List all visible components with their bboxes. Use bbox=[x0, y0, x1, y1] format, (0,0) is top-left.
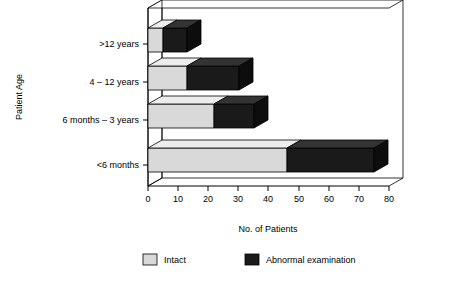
x-tick-label: 0 bbox=[145, 194, 150, 204]
bar-segment-intact bbox=[148, 66, 187, 90]
x-axis-ticks bbox=[148, 186, 389, 191]
x-tick-label: 50 bbox=[294, 194, 304, 204]
bar-group-under-6-months bbox=[148, 140, 388, 172]
legend-swatch-abnormal-examination bbox=[245, 254, 259, 265]
bar-segment-abnormal bbox=[214, 104, 254, 128]
bar-segment-intact-top bbox=[148, 140, 301, 148]
x-tick-label: 40 bbox=[263, 194, 273, 204]
bar-segment-abnormal bbox=[287, 148, 374, 172]
x-tick-labels: 0 10 20 30 40 50 60 70 80 bbox=[145, 194, 394, 204]
bar-segment-abnormal bbox=[163, 28, 187, 52]
legend-swatch-intact bbox=[143, 254, 157, 265]
bar-chart-svg: 0 10 20 30 40 50 60 70 80 >12 years 4 – … bbox=[0, 0, 468, 297]
x-tick-label: 60 bbox=[324, 194, 334, 204]
y-tick-label: <6 months bbox=[97, 160, 140, 170]
legend-label-abnormal-examination: Abnormal examination bbox=[266, 255, 356, 265]
x-tick-label: 20 bbox=[203, 194, 213, 204]
x-tick-label: 70 bbox=[354, 194, 364, 204]
bar-segment-abnormal-top bbox=[287, 140, 388, 148]
y-axis-ticks bbox=[143, 44, 148, 165]
bar-segment-intact bbox=[148, 104, 214, 128]
bar-group-4-12-years bbox=[148, 58, 253, 90]
bar-group-over-12-years bbox=[148, 20, 201, 52]
legend: Intact Abnormal examination bbox=[143, 254, 356, 265]
chart-container: 0 10 20 30 40 50 60 70 80 >12 years 4 – … bbox=[0, 0, 468, 297]
x-axis-title: No. of Patients bbox=[238, 224, 298, 234]
plot-top-edge bbox=[148, 0, 403, 8]
x-tick-label: 30 bbox=[233, 194, 243, 204]
y-tick-label: 4 – 12 years bbox=[89, 77, 139, 87]
x-tick-label: 10 bbox=[173, 194, 183, 204]
legend-label-intact: Intact bbox=[164, 255, 187, 265]
bar-segment-intact bbox=[148, 28, 163, 52]
bar-segment-abnormal bbox=[187, 66, 239, 90]
bar-segment-intact bbox=[148, 148, 287, 172]
y-tick-labels: >12 years 4 – 12 years 6 months – 3 year… bbox=[62, 39, 139, 170]
y-tick-label: >12 years bbox=[99, 39, 139, 49]
x-tick-label: 80 bbox=[384, 194, 394, 204]
y-axis-title: Patient Age bbox=[14, 74, 24, 120]
y-tick-label: 6 months – 3 years bbox=[62, 115, 139, 125]
x-axis-right-depth-line bbox=[389, 178, 403, 186]
bar-group-6-months-3-years bbox=[148, 96, 268, 128]
